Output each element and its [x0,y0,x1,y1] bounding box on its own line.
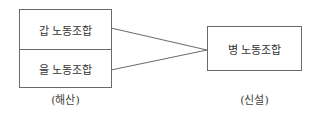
box-eul-union: 을 노동조합 [19,49,112,88]
connector-eul-to-byeong [111,50,207,70]
box-gap-union-label: 갑 노동조합 [39,22,93,38]
caption-new: (신설) [207,91,302,107]
box-byeong-union-label: 병 노동조합 [228,41,282,57]
box-eul-union-label: 을 노동조합 [39,61,93,77]
box-byeong-union: 병 노동조합 [207,26,302,71]
box-gap-union: 갑 노동조합 [19,9,112,50]
caption-dissolved: (해산) [19,91,112,107]
connector-gap-to-byeong [111,28,207,50]
